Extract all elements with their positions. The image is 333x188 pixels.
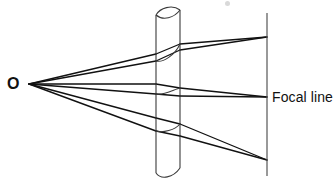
lens-arc-lower [156,124,180,132]
point-source-label: O [7,76,19,92]
upper-ray-inside-2 [156,50,180,61]
lower-ray-bundle [29,84,267,160]
lower-ray-outgoing-1 [180,124,267,160]
lens-bottom-rim-front [156,168,180,177]
stray-speck-artifact [225,1,230,6]
ray-diagram-figure: O Focal line [0,0,333,188]
focal-line-label: Focal line [272,90,333,104]
upper-ray-incoming-2 [29,61,156,84]
lower-ray-inside-1 [156,118,180,124]
central-ray-bundle [29,84,267,97]
upper-ray-incoming-1 [29,54,156,84]
upper-ray-inside-1 [156,44,180,54]
central-ray-inside-1 [156,84,180,88]
lens-arc-central [156,88,180,94]
upper-ray-bundle [29,37,267,84]
lower-ray-incoming-2 [29,84,156,131]
lower-ray-outgoing-2 [180,136,267,160]
